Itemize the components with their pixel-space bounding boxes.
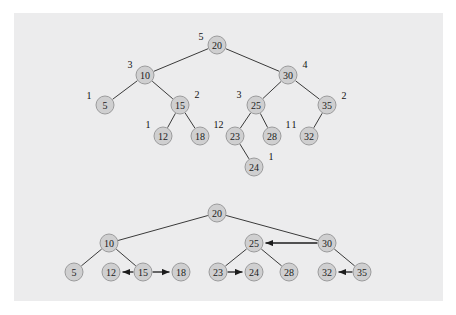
top-tree-node-height-32: 1 (292, 119, 297, 130)
top-tree-node-height-24: 1 (269, 151, 274, 162)
top-tree-node-height-28: 1 (286, 119, 291, 130)
top-tree-node-35[interactable]: 35 (318, 96, 336, 114)
tree-edge-20-30 (226, 215, 318, 240)
bottom-tree-node-35[interactable]: 35 (353, 263, 371, 281)
top-tree-node-height-5: 1 (87, 90, 92, 101)
top-tree-node-10[interactable]: 10 (136, 66, 154, 84)
bottom-tree-node-24[interactable]: 24 (245, 263, 263, 281)
bottom-tree-node-32[interactable]: 32 (318, 263, 336, 281)
top-tree-node-23[interactable]: 23 (226, 127, 244, 145)
tree-edge-15-18 (185, 113, 195, 128)
top-tree-node-value-18: 18 (195, 131, 205, 142)
top-tree-node-32[interactable]: 32 (300, 127, 318, 145)
top-tree-node-height-30: 4 (303, 59, 308, 70)
top-tree-node-height-20: 5 (199, 31, 204, 42)
top-tree-node-value-23: 23 (230, 131, 240, 142)
bottom-tree-node-value-23: 23 (213, 267, 223, 278)
bottom-tree-nodes: 2010253051215182324283235 (65, 204, 371, 281)
bottom-tree-node-value-35: 35 (357, 267, 367, 278)
top-tree-node-height-12: 1 (146, 119, 151, 130)
tree-edge-25-28 (260, 113, 267, 127)
tree-edge-30-35 (334, 249, 354, 266)
top-tree-edges (113, 49, 323, 159)
bottom-tree-node-value-5: 5 (72, 267, 77, 278)
bottom-tree-node-30[interactable]: 30 (318, 234, 336, 252)
tree-edge-25-23 (225, 249, 246, 266)
top-tree-node-value-30: 30 (283, 70, 293, 81)
tree-edge-20-10 (154, 49, 208, 72)
tree-edge-25-28 (261, 249, 281, 266)
tree-edge-30-25 (263, 81, 281, 98)
bottom-tree-node-value-20: 20 (212, 208, 222, 219)
tree-edge-30-35 (296, 81, 320, 99)
bottom-tree-node-value-30: 30 (322, 238, 332, 249)
top-tree-node-value-20: 20 (212, 40, 222, 51)
bottom-tree-node-12[interactable]: 12 (102, 263, 120, 281)
top-tree-node-value-32: 32 (304, 131, 314, 142)
bottom-tree-node-15[interactable]: 15 (134, 263, 152, 281)
tree-edge-20-10 (118, 216, 208, 241)
top-tree-node-height-15: 2 (195, 89, 200, 100)
top-tree-nodes: 20510330451152253352121181232281321241 (87, 31, 347, 177)
top-tree-node-value-12: 12 (158, 131, 168, 142)
top-tree-node-25[interactable]: 25 (247, 96, 265, 114)
top-tree-node-value-5: 5 (103, 100, 108, 111)
bottom-tree-node-value-24: 24 (249, 267, 259, 278)
bottom-tree-node-value-18: 18 (176, 267, 186, 278)
tree-edge-10-5 (81, 249, 101, 266)
top-tree-node-height-25: 3 (237, 89, 242, 100)
tree-edge-10-15 (152, 81, 173, 99)
bottom-tree-node-10[interactable]: 10 (100, 234, 118, 252)
top-tree-node-height-35: 2 (342, 90, 347, 101)
bottom-tree-node-value-15: 15 (138, 267, 148, 278)
top-tree-node-value-15: 15 (175, 100, 185, 111)
top-tree-node-28[interactable]: 28 (263, 127, 281, 145)
figure-page: 20510330451152253352121181232281321241 2… (0, 0, 456, 315)
bottom-tree-node-value-10: 10 (104, 238, 114, 249)
tree-edge-10-5 (113, 81, 138, 100)
top-tree-node-value-10: 10 (140, 70, 150, 81)
bottom-tree-edges (81, 215, 354, 266)
top-tree-node-value-24: 24 (249, 162, 259, 173)
bottom-tree-node-20[interactable]: 20 (208, 204, 226, 222)
bottom-tree-node-5[interactable]: 5 (65, 263, 83, 281)
top-tree-node-height-10: 3 (128, 59, 133, 70)
tree-edge-23-24 (240, 144, 249, 159)
top-tree-node-height-23: 2 (219, 119, 224, 130)
top-tree-node-24[interactable]: 24 (245, 158, 263, 176)
bottom-tree-node-value-12: 12 (106, 267, 116, 278)
tree-edge-10-15 (116, 249, 136, 266)
bottom-tree-threads (123, 243, 353, 272)
top-tree-node-value-25: 25 (251, 100, 261, 111)
top-tree-node-15[interactable]: 15 (171, 96, 189, 114)
top-tree-node-30[interactable]: 30 (279, 66, 297, 84)
bottom-tree-node-18[interactable]: 18 (172, 263, 190, 281)
bottom-tree-node-28[interactable]: 28 (280, 263, 298, 281)
top-tree-node-20[interactable]: 20 (208, 36, 226, 54)
bottom-tree-node-25[interactable]: 25 (245, 234, 263, 252)
top-tree-node-18[interactable]: 18 (191, 127, 209, 145)
top-tree-node-value-28: 28 (267, 131, 277, 142)
top-tree-node-5[interactable]: 5 (96, 96, 114, 114)
tree-edge-20-30 (226, 49, 279, 72)
top-tree-node-12[interactable]: 12 (154, 127, 172, 145)
bottom-tree-node-value-32: 32 (322, 267, 332, 278)
bottom-tree-node-value-25: 25 (249, 238, 259, 249)
top-tree-node-value-35: 35 (322, 100, 332, 111)
tree-edge-25-23 (240, 113, 250, 128)
bottom-tree-node-value-28: 28 (284, 267, 294, 278)
bottom-tree-node-23[interactable]: 23 (209, 263, 227, 281)
tree-edge-35-32 (314, 113, 322, 128)
tree-diagram-svg: 20510330451152253352121181232281321241 2… (0, 0, 456, 315)
tree-edge-15-12 (168, 113, 176, 127)
